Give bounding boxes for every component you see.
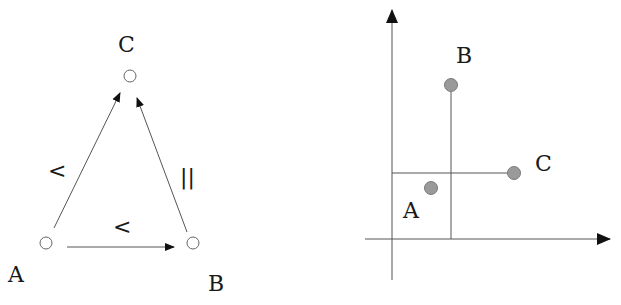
point-a [425,182,438,195]
point-label-b: B [456,43,472,68]
node-label-c: C [118,32,135,57]
point-b [445,79,458,92]
figure: < < || C A B B C A [0,0,621,305]
point-c [508,167,521,180]
edge-label-ac: < [48,158,66,183]
point-label-a: A [402,198,420,223]
node-c [124,70,136,82]
node-label-a: A [7,262,25,287]
coordinate-plot: B C A [365,10,610,280]
node-b [187,237,199,249]
relation-graph: < < || C A B [7,32,224,296]
edge-label-ab: < [113,214,131,239]
point-label-c: C [535,151,552,176]
node-label-b: B [208,271,224,296]
node-a [40,237,52,249]
edge-label-bc: || [180,164,195,190]
